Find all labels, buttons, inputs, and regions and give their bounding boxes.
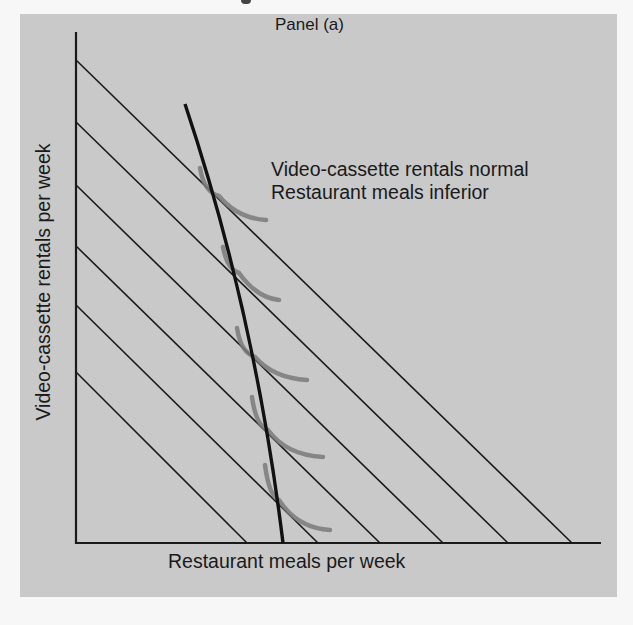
budget-line-4 [76, 246, 380, 543]
y-axis-label: Video-cassette rentals per week [32, 143, 55, 420]
annotation-line-normal-good: Video-cassette rentals normal [271, 158, 529, 181]
budget-line-6 [76, 372, 247, 543]
budget-line-1 [76, 60, 572, 543]
annotation-line-inferior-good: Restaurant meals inferior [271, 181, 529, 204]
x-axis-label: Restaurant meals per week [168, 550, 405, 573]
annotation-text: Video-cassette rentals normal Restaurant… [271, 158, 529, 204]
axes [75, 32, 601, 544]
income-consumption-diagram [0, 0, 633, 625]
budget-lines [76, 60, 572, 543]
panel-title: Panel (a) [275, 15, 375, 35]
